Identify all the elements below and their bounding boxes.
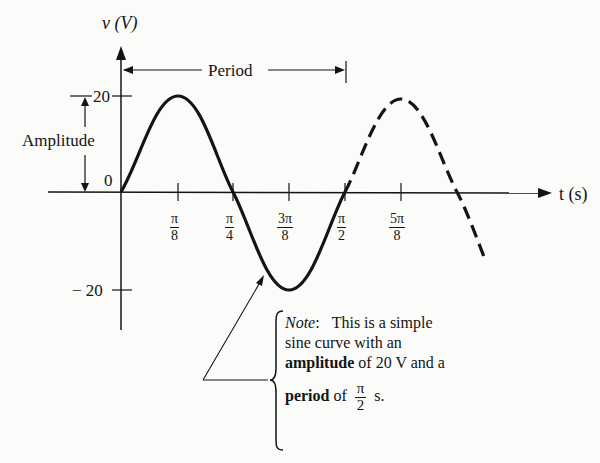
- sine-curve-dashed: [345, 99, 486, 262]
- x-tick-label-pi-4: π4: [225, 212, 234, 243]
- note-line-4: period of π2 s.: [285, 381, 445, 413]
- note-brace: [270, 311, 283, 450]
- note-line-3: amplitude of 20 V and a: [285, 353, 445, 373]
- note-pointer-line: [203, 279, 262, 380]
- amplitude-down-arrow-icon: [81, 183, 89, 192]
- x-tick-label-pi-2: π2: [337, 212, 346, 243]
- x-tick-label-5pi-8: 5π8: [389, 212, 405, 243]
- y-axis-arrow-icon: [116, 46, 126, 60]
- y-axis-label: v (V): [102, 14, 137, 32]
- amplitude-up-arrow-icon: [81, 97, 89, 106]
- x-tick-label-3pi-8: 3π8: [277, 212, 293, 243]
- y-tick-label-0: 0: [104, 172, 113, 189]
- note-line-1: Note: This is a simple: [285, 313, 445, 333]
- amplitude-label: Amplitude: [22, 132, 95, 149]
- period-right-arrow-icon: [335, 66, 345, 74]
- period-left-arrow-icon: [123, 66, 133, 74]
- period-label: Period: [208, 62, 252, 79]
- note-box: Note: This is a simple sine curve with a…: [285, 313, 445, 413]
- x-axis-label: t (s): [559, 185, 588, 203]
- note-period-fraction: π2: [355, 381, 367, 413]
- note-pointer-arrow-icon: [256, 275, 264, 286]
- y-tick-label-neg20: − 20: [72, 282, 103, 299]
- x-axis-arrow-icon: [538, 188, 552, 198]
- x-tick-label-pi-8: π8: [170, 212, 179, 243]
- note-line-2: sine curve with an: [285, 333, 445, 353]
- y-tick-label-20: 20: [93, 88, 110, 105]
